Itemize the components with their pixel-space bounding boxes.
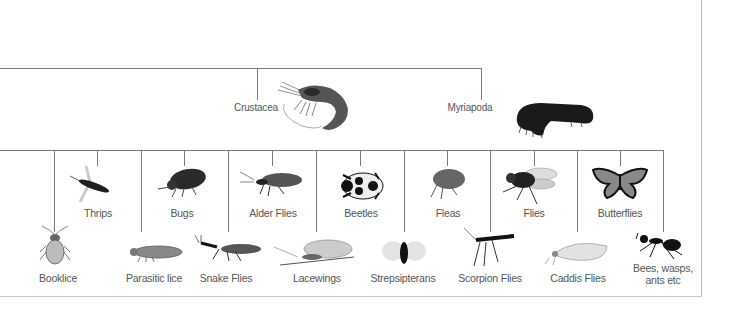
shrimp-icon (272, 76, 358, 134)
alder-flies-label: Alder Flies (249, 207, 296, 219)
booklice-connector (54, 150, 55, 232)
bees-connector (663, 150, 664, 232)
bees-wasps-ants-label: Bees, wasps, ants etc (633, 262, 693, 286)
thrips-icon (66, 162, 114, 208)
fly-icon (497, 164, 565, 208)
bug-icon (152, 165, 214, 199)
alder-flies-connector (272, 150, 273, 166)
beetles-label: Beetles (344, 207, 378, 219)
lacewings-label: Lacewings (293, 272, 341, 284)
upper-branch-line (0, 68, 482, 69)
butterflies-label: Butterflies (598, 207, 643, 219)
beetle-icon (335, 167, 387, 205)
lacewing-icon (274, 237, 356, 267)
millipede-icon (511, 97, 597, 139)
caddis-flies-label: Caddis Flies (550, 272, 605, 284)
booklice-label: Booklice (39, 272, 77, 284)
fleas-connector (447, 150, 448, 166)
diagram-frame-right (701, 0, 702, 297)
caddisfly-icon (545, 240, 611, 266)
snake-flies-connector (228, 150, 229, 232)
lacewings-connector (316, 150, 317, 232)
snakefly-icon (193, 233, 263, 265)
bees-label-line2: ants etc (633, 274, 693, 286)
parasitic-lice-label: Parasitic lice (126, 272, 182, 284)
myriapoda-connector (481, 68, 482, 100)
scorpion-flies-connector (490, 150, 491, 232)
crustacea-connector (257, 68, 258, 100)
flea-icon (423, 167, 467, 201)
ant-icon (634, 229, 686, 261)
beetles-connector (360, 150, 361, 166)
alderfly-icon (238, 170, 306, 198)
snake-flies-label: Snake Flies (200, 272, 253, 284)
booklouse-icon (36, 222, 74, 268)
butterflies-connector (620, 150, 621, 166)
scorpionfly-icon (462, 226, 518, 270)
bugs-connector (184, 150, 185, 166)
insect-branch-line (0, 150, 664, 151)
bugs-label: Bugs (170, 207, 193, 219)
butterfly-icon (591, 166, 649, 200)
strepsipterans-label: Strepsipterans (371, 272, 436, 284)
strepsipteran-icon (381, 235, 427, 267)
thrips-label: Thrips (84, 207, 112, 219)
strepsipterans-connector (404, 150, 405, 232)
fleas-label: Fleas (436, 207, 461, 219)
diagram-frame-bottom (0, 296, 702, 297)
flies-label: Flies (523, 207, 544, 219)
myriapoda-label: Myriapoda (448, 102, 493, 114)
caddis-flies-connector (577, 150, 578, 232)
parasitic-lice-connector (141, 150, 142, 232)
scorpion-flies-label: Scorpion Flies (458, 272, 522, 284)
louse-icon (126, 243, 184, 263)
bees-label-line1: Bees, wasps, (633, 262, 693, 274)
